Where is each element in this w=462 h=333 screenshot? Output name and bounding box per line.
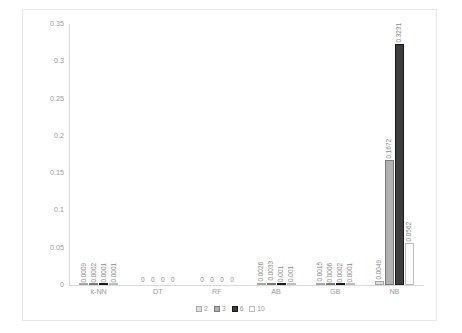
bar-gb-series-6[interactable] (336, 283, 345, 285)
bar-wrapper: 0.0026 (257, 24, 266, 285)
y-axis-tick-label: 0.05 (50, 244, 64, 251)
bars: 0.00490.16720.32310.0562 (365, 24, 424, 285)
legend-label: 3 (222, 306, 226, 313)
y-axis-tick-label: 0.15 (50, 170, 64, 177)
bar-wrapper: 0.0015 (316, 24, 325, 285)
bar-k-nn-series-3[interactable] (89, 283, 98, 285)
x-axis-line (69, 285, 424, 286)
bar-wrapper: 0.0001 (109, 24, 118, 285)
x-axis-category-label: NB (365, 287, 424, 296)
bar-nb-series-3[interactable] (385, 160, 394, 285)
bar-wrapper: 0.0033 (267, 24, 276, 285)
bar-gb-series-3[interactable] (326, 283, 335, 285)
bar-k-nn-series-10[interactable] (109, 283, 118, 285)
bar-data-label: 0 (230, 277, 234, 283)
bar-data-label: 0.0002 (337, 263, 343, 283)
bar-wrapper: 0.001 (277, 24, 286, 285)
legend-label: 2 (204, 306, 208, 313)
bar-ab-series-10[interactable] (287, 283, 296, 285)
bar-data-label: 0.3231 (396, 23, 402, 43)
bar-wrapper: 0 (207, 24, 216, 285)
bar-gb-series-2[interactable] (316, 283, 325, 285)
bar-data-label: 0.0002 (90, 263, 96, 283)
bar-data-label: 0.0001 (100, 263, 106, 283)
bar-wrapper: 0 (148, 24, 157, 285)
legend-item-2[interactable]: 2 (196, 306, 208, 313)
bar-data-label: 0 (171, 277, 175, 283)
bar-group-rf: 0000RF (187, 24, 246, 285)
bar-wrapper: 0.0002 (336, 24, 345, 285)
bar-group-k-nn: 0.00090.00020.00010.0001k-NN (69, 24, 128, 285)
x-axis-category-label: RF (187, 287, 246, 296)
bar-nb-series-10[interactable] (405, 243, 414, 285)
y-axis-tick-label: 0.35 (50, 20, 64, 27)
legend-swatch-icon (249, 306, 255, 312)
bar-data-label: 0.0001 (110, 263, 116, 283)
bar-wrapper: 0.0006 (326, 24, 335, 285)
bar-ab-series-2[interactable] (257, 283, 266, 285)
y-axis-tick-label: 0.2 (54, 132, 64, 139)
y-axis-tick-label: 0 (60, 281, 64, 288)
bar-data-label: 0 (200, 277, 204, 283)
bar-wrapper: 0.0562 (405, 24, 414, 285)
legend-swatch-icon (214, 306, 220, 312)
bar-ab-series-3[interactable] (267, 283, 276, 285)
bar-wrapper: 0.0049 (375, 24, 384, 285)
bar-k-nn-series-6[interactable] (99, 283, 108, 285)
bar-group-nb: 0.00490.16720.32310.0562NB (365, 24, 424, 285)
bar-data-label: 0.0009 (80, 263, 86, 283)
legend-item-6[interactable]: 6 (232, 306, 244, 313)
bar-group-dt: 0000DT (128, 24, 187, 285)
bars: 0.00090.00020.00010.0001 (69, 24, 128, 285)
bar-data-label: 0.0049 (376, 260, 382, 280)
legend-swatch-icon (196, 306, 202, 312)
bar-data-label: 0.0562 (406, 222, 412, 242)
bar-data-label: 0 (151, 277, 155, 283)
bar-ab-series-6[interactable] (277, 283, 286, 285)
x-axis-category-label: GB (306, 287, 365, 296)
legend-item-3[interactable]: 3 (214, 306, 226, 313)
bar-data-label: 0.001 (288, 266, 294, 282)
bar-data-label: 0.001 (278, 266, 284, 282)
chart-legend: 23610 (23, 306, 438, 313)
bar-wrapper: 0.3231 (395, 24, 404, 285)
bar-data-label: 0 (161, 277, 165, 283)
bar-wrapper: 0.0001 (99, 24, 108, 285)
bar-wrapper: 0.1672 (385, 24, 394, 285)
bar-wrapper: 0 (217, 24, 226, 285)
bar-data-label: 0.0006 (327, 263, 333, 283)
x-axis-category-label: k-NN (69, 287, 128, 296)
bar-data-label: 0 (141, 277, 145, 283)
bar-data-label: 0.0033 (268, 261, 274, 281)
bar-wrapper: 0 (168, 24, 177, 285)
bar-wrapper: 0 (227, 24, 236, 285)
bar-wrapper: 0 (197, 24, 206, 285)
bar-wrapper: 0 (158, 24, 167, 285)
bar-wrapper: 0.0001 (346, 24, 355, 285)
bar-wrapper: 0 (138, 24, 147, 285)
bars: 0000 (187, 24, 246, 285)
bar-data-label: 0 (220, 277, 224, 283)
bars: 0.00260.00330.0010.001 (247, 24, 306, 285)
bar-gb-series-10[interactable] (346, 283, 355, 285)
y-axis-tick-label: 0.3 (54, 58, 64, 65)
legend-label: 10 (257, 306, 264, 313)
bar-wrapper: 0.001 (287, 24, 296, 285)
legend-item-10[interactable]: 10 (249, 306, 264, 313)
x-axis-category-label: AB (247, 287, 306, 296)
y-axis-tick-label: 0.25 (50, 95, 64, 102)
bar-nb-series-6[interactable] (395, 44, 404, 285)
legend-swatch-icon (232, 306, 238, 312)
bar-group-gb: 0.00150.00060.00020.0001GB (306, 24, 365, 285)
bar-wrapper: 0.0002 (89, 24, 98, 285)
bar-data-label: 0.0001 (347, 263, 353, 283)
bar-k-nn-series-2[interactable] (79, 283, 88, 285)
bars: 0.00150.00060.00020.0001 (306, 24, 365, 285)
bar-nb-series-2[interactable] (375, 281, 384, 285)
bar-wrapper: 0.0009 (79, 24, 88, 285)
legend-label: 6 (240, 306, 244, 313)
bars: 0000 (128, 24, 187, 285)
bar-data-label: 0.0015 (317, 262, 323, 282)
y-axis-tick-label: 0.1 (54, 207, 64, 214)
chart-container: 00.050.10.150.20.250.30.35 0.00090.00020… (22, 9, 437, 321)
